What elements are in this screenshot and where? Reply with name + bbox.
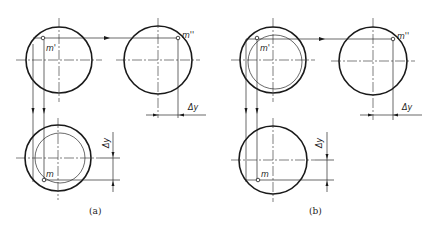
point-m-b — [256, 178, 260, 182]
label-m-b: m — [261, 170, 269, 179]
label-dy-top-b: Δy — [315, 138, 324, 149]
label-m-double-prime-a: m'' — [182, 31, 194, 40]
label-m-prime-a: m' — [46, 44, 56, 53]
top-view-b — [231, 118, 315, 202]
point-m-double-prime-b — [391, 37, 395, 41]
label-m-double-prime-b: m'' — [397, 32, 409, 41]
top-view-a — [16, 118, 100, 200]
point-m-prime-b — [255, 36, 259, 40]
panel-a: m' m'' Δy m Δy (a) — [16, 18, 206, 216]
caption-a: (a) — [89, 206, 101, 216]
caption-b: (b) — [309, 206, 322, 216]
front-view-a — [16, 18, 102, 102]
label-dy-top-a: Δy — [102, 138, 111, 149]
label-dy-side-a: Δy — [187, 103, 198, 112]
front-view-b — [231, 18, 315, 102]
point-m-double-prime-a — [176, 36, 180, 40]
label-m-prime-b: m' — [260, 44, 270, 53]
label-m-a: m — [46, 170, 54, 179]
panel-b: m' m'' Δy m Δy (b) — [231, 18, 422, 216]
projection-diagram: m' m'' Δy m Δy (a) — [0, 0, 436, 232]
point-m-prime-a — [41, 36, 45, 40]
label-dy-side-b: Δy — [401, 103, 412, 112]
